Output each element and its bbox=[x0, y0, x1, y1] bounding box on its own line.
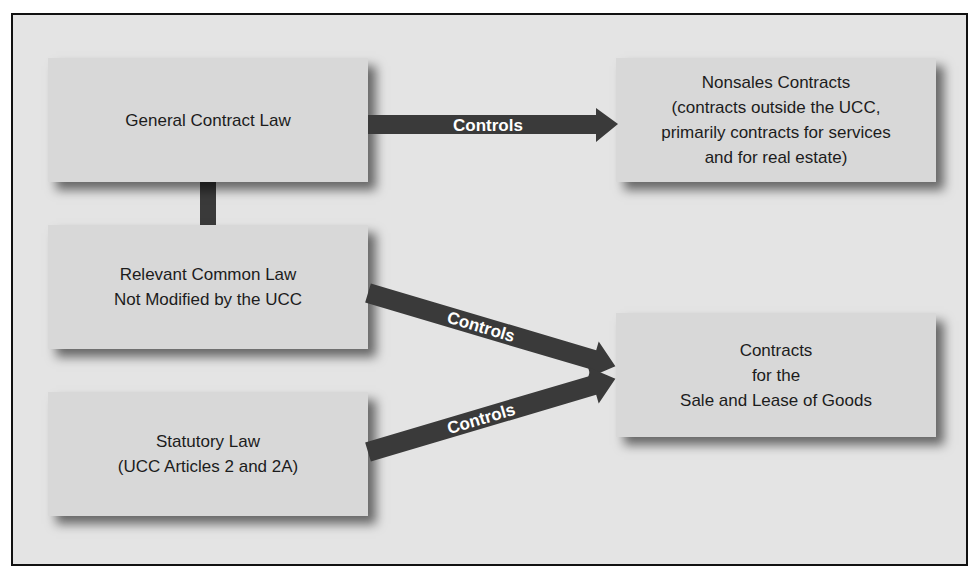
node-general-contract-law: General Contract Law bbox=[48, 58, 368, 182]
node-label: General Contract Law bbox=[125, 108, 290, 133]
node-sale-lease-goods: Contracts for the Sale and Lease of Good… bbox=[616, 313, 936, 437]
node-label: Contracts for the Sale and Lease of Good… bbox=[680, 338, 872, 413]
node-label: Nonsales Contracts (contracts outside th… bbox=[661, 70, 891, 170]
connector-general-to-common bbox=[200, 182, 216, 228]
node-nonsales-contracts: Nonsales Contracts (contracts outside th… bbox=[616, 58, 936, 182]
node-label: Relevant Common Law Not Modified by the … bbox=[114, 262, 302, 312]
node-relevant-common-law: Relevant Common Law Not Modified by the … bbox=[48, 225, 368, 349]
node-label: Statutory Law (UCC Articles 2 and 2A) bbox=[118, 429, 298, 479]
node-statutory-law: Statutory Law (UCC Articles 2 and 2A) bbox=[48, 392, 368, 516]
